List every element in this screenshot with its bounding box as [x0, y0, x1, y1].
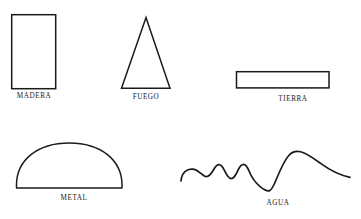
fuego-triangle-shape — [122, 18, 171, 89]
diagram-canvas: MADERA FUEGO TIERRA METAL AGUA — [0, 0, 361, 219]
tierra-rectangle-shape — [237, 72, 330, 88]
label-agua: AGUA — [245, 200, 311, 207]
metal-dome-shape — [17, 143, 123, 188]
label-tierra: TIERRA — [250, 96, 336, 103]
label-metal: METAL — [40, 195, 108, 202]
label-fuego: FUEGO — [113, 94, 179, 101]
madera-rectangle-shape — [12, 15, 56, 89]
shape-layer — [0, 0, 361, 219]
agua-wave-shape — [181, 151, 350, 191]
label-madera: MADERA — [0, 93, 68, 100]
